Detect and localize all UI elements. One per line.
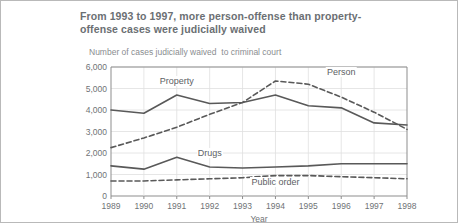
y-axis-tick-label: 5,000 xyxy=(86,84,107,94)
x-axis-tick-label: 1990 xyxy=(134,201,153,211)
series-label-property: Property xyxy=(159,76,195,86)
series-label-person: Person xyxy=(326,67,357,77)
x-axis-tick-label: 1995 xyxy=(299,201,318,211)
y-axis-tick-label: 3,000 xyxy=(86,127,107,137)
chart-title: From 1993 to 1997, more person-offense t… xyxy=(80,10,370,36)
y-axis-tick-label: 4,000 xyxy=(86,105,107,115)
chart-subtitle: Number of cases judicially waived to cri… xyxy=(89,47,281,57)
series-label-drugs: Drugs xyxy=(197,148,223,158)
x-axis-tick-label: 1989 xyxy=(102,201,121,211)
y-axis-tick-label: 6,000 xyxy=(86,62,107,72)
chart-figure: From 1993 to 1997, more person-offense t… xyxy=(0,0,458,223)
series-label-public-order: Public order xyxy=(250,177,300,187)
x-axis-title: Year xyxy=(111,214,407,223)
x-axis-tick-label: 1992 xyxy=(200,201,219,211)
x-axis-tick-label: 1998 xyxy=(398,201,417,211)
x-axis-tick-label: 1997 xyxy=(365,201,384,211)
y-axis-tick-label: 1,000 xyxy=(86,170,107,180)
series-line-drugs xyxy=(111,157,407,169)
x-axis-tick-label: 1991 xyxy=(167,201,186,211)
x-axis-tick-label: 1996 xyxy=(332,201,351,211)
y-axis-tick-label: 0 xyxy=(102,191,107,201)
x-axis-tick-label: 1993 xyxy=(233,201,252,211)
y-axis-tick-label: 2,000 xyxy=(86,148,107,158)
series-line-person xyxy=(111,81,407,148)
plot-area: Year 6,0005,0004,0003,0002,0001,00001989… xyxy=(111,67,407,196)
x-axis-tick-label: 1994 xyxy=(266,201,285,211)
